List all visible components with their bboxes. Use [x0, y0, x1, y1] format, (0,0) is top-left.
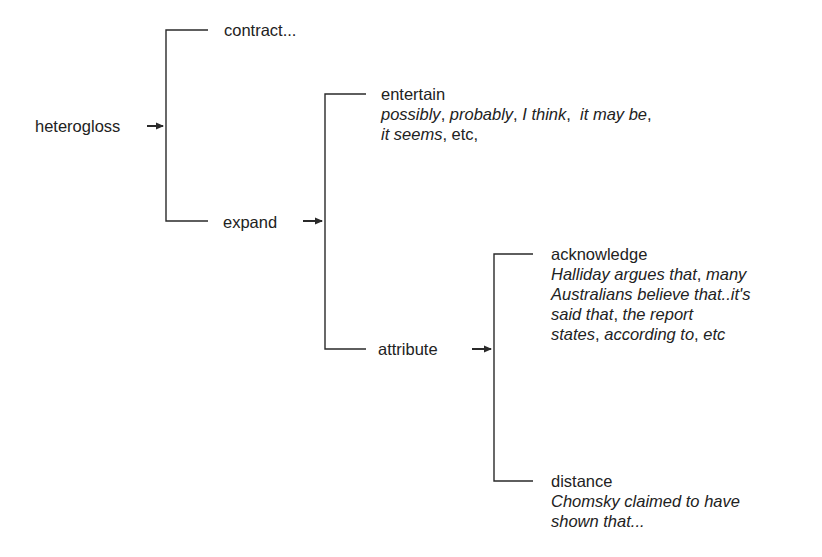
- system-bracket-3: [494, 254, 533, 481]
- node-examples: Halliday argues that, manyAustralians be…: [551, 264, 750, 344]
- system-network-diagram: heterogloss contract... expand entertain…: [0, 0, 822, 557]
- node-entertain: entertain possibly, probably, I think, i…: [381, 84, 652, 144]
- system-bracket-2: [325, 94, 366, 349]
- node-attribute: attribute: [378, 339, 438, 359]
- node-expand: expand: [223, 212, 277, 232]
- node-acknowledge: acknowledge Halliday argues that, manyAu…: [551, 244, 750, 344]
- node-title: entertain: [381, 84, 652, 104]
- node-distance: distance Chomsky claimed to haveshown th…: [551, 471, 740, 531]
- node-examples: Chomsky claimed to haveshown that...: [551, 491, 740, 531]
- node-title: distance: [551, 471, 740, 491]
- node-examples: possibly, probably, I think, it may be,i…: [381, 104, 652, 144]
- node-heterogloss: heterogloss: [35, 116, 120, 136]
- node-title: acknowledge: [551, 244, 750, 264]
- node-contract: contract...: [224, 20, 296, 40]
- system-bracket-1: [166, 30, 208, 221]
